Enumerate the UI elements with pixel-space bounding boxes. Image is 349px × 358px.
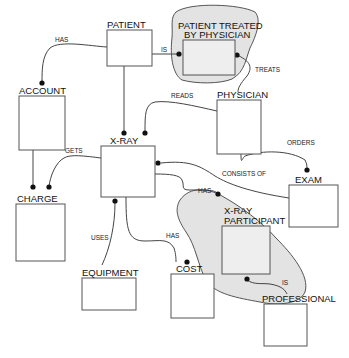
entity-xray-participant-label-2: PARTICIPANT — [224, 215, 285, 226]
connector-dot — [46, 184, 51, 189]
rel-label-treats: TREATS — [255, 66, 281, 73]
er-diagram: PATIENT PATIENT TREATED BY PHYSICIAN ACC… — [0, 0, 349, 358]
entity-exam-box[interactable] — [289, 185, 338, 227]
rel-label-has-cost: HAS — [166, 232, 180, 239]
rel-label-reads: READS — [171, 92, 194, 99]
entity-professional-label: PROFESSIONAL — [262, 293, 336, 304]
connector-dot — [30, 184, 35, 189]
entity-equipment-label: EQUIPMENT — [82, 267, 139, 278]
entity-patient-treated-box[interactable] — [183, 40, 235, 75]
rel-label-has-account: HAS — [55, 36, 69, 43]
entity-equipment-box[interactable] — [82, 278, 136, 310]
rel-label-is-professional: IS — [282, 279, 289, 286]
rel-physician-orders-exam — [241, 152, 307, 170]
entity-exam-label: EXAM — [295, 174, 322, 185]
connector-dot — [304, 167, 309, 172]
entity-cost-label: COST — [176, 263, 203, 274]
rel-exam-consists-of-xray — [161, 162, 289, 198]
rel-label-is-treated: IS — [161, 46, 168, 53]
rel-physician-reads-xray — [145, 102, 217, 131]
rel-label-uses: USES — [91, 234, 109, 241]
entity-xray-participant-box[interactable] — [222, 226, 270, 274]
entity-physician-label: PHYSICIAN — [217, 89, 268, 100]
entity-cost-box[interactable] — [171, 274, 214, 318]
rel-label-consists-of: CONSISTS OF — [222, 170, 266, 177]
rel-xray-gets-charge — [49, 156, 101, 187]
entity-charge-label: CHARGE — [17, 193, 58, 204]
connector-dot — [244, 276, 249, 281]
connector-dot — [176, 51, 181, 56]
entity-patient-box[interactable] — [107, 30, 152, 66]
connector-dot — [112, 198, 117, 203]
entity-xray-box[interactable] — [101, 146, 155, 197]
entity-account-label: ACCOUNT — [19, 85, 66, 96]
entity-xray-label: X-RAY — [110, 135, 139, 146]
connector-dot — [155, 160, 160, 165]
entity-patient-label: PATIENT — [107, 19, 146, 30]
connector-dot — [215, 191, 220, 196]
entity-patient-treated-label-2: BY PHYSICIAN — [184, 29, 250, 40]
rel-patient-has-account — [42, 44, 107, 82]
rel-xray-has-cost — [126, 197, 176, 262]
entity-charge-box[interactable] — [16, 204, 65, 261]
entity-physician-box[interactable] — [217, 100, 261, 154]
rel-label-orders: ORDERS — [287, 139, 315, 146]
entity-professional-box[interactable] — [264, 304, 307, 346]
entity-account-box[interactable] — [19, 96, 65, 150]
connector-dot — [142, 130, 147, 135]
rel-label-has-participant: HAS — [198, 187, 212, 194]
rel-label-gets: GETS — [65, 147, 83, 154]
